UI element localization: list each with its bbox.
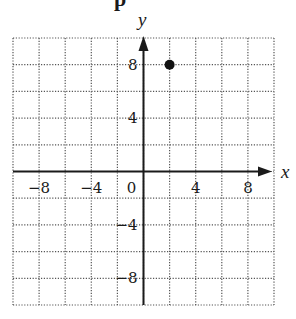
y-tick-label: 4 <box>128 109 138 127</box>
y-tick-label: 8 <box>128 56 138 74</box>
y-tick-label: −4 <box>115 216 137 234</box>
x-tick-label: 0 <box>127 179 137 197</box>
axes <box>13 36 272 305</box>
x-tick-label: −4 <box>80 179 102 197</box>
cut-off-heading: p <box>114 0 126 11</box>
x-tick-label: 4 <box>191 179 201 197</box>
x-axis-arrow-icon <box>258 167 272 177</box>
x-tick-label: 8 <box>243 179 253 197</box>
x-axis-label: x <box>280 161 290 182</box>
y-tick-label: −8 <box>115 269 137 287</box>
data-point <box>165 60 175 70</box>
x-tick-labels: −8−4048 <box>28 179 253 197</box>
data-points <box>165 60 175 70</box>
x-tick-label: −8 <box>28 179 50 197</box>
coordinate-plane: p −8−4048 84−4−8 y x <box>0 0 296 319</box>
y-axis-label: y <box>136 9 147 30</box>
